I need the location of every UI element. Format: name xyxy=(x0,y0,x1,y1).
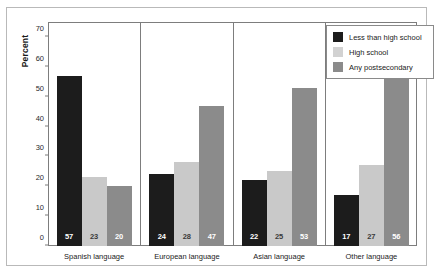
bar-value-label: 17 xyxy=(334,233,359,241)
chart-figure: Percent 010203040506070 572320Spanish la… xyxy=(6,7,427,266)
panel-bars: 572320 xyxy=(48,22,140,246)
bar[interactable]: 53 xyxy=(292,88,317,246)
y-axis-tick-label: 50 xyxy=(36,83,44,92)
legend-swatch-icon xyxy=(333,47,343,57)
x-axis-category-label: Spanish language xyxy=(48,252,140,261)
y-axis-title: Percent xyxy=(20,21,30,81)
legend-swatch-icon xyxy=(333,32,343,42)
bar-value-label: 28 xyxy=(174,233,199,241)
chart-legend: Less than high schoolHigh schoolAny post… xyxy=(326,25,434,79)
bar[interactable]: 56 xyxy=(384,79,409,246)
y-axis-tick-label: 10 xyxy=(36,203,44,212)
x-axis-category-label: Other language xyxy=(326,252,417,261)
chart-panel: 242847European language xyxy=(140,22,232,246)
panel-bars: 222553 xyxy=(234,22,325,246)
legend-swatch-icon xyxy=(333,62,343,72)
legend-item[interactable]: Any postsecondary xyxy=(333,62,428,72)
chart-panel: 222553Asian language xyxy=(233,22,325,246)
y-axis-tick-label: 60 xyxy=(36,53,44,62)
y-axis-tick-label: 0 xyxy=(40,233,44,242)
bar-value-label: 47 xyxy=(199,233,224,241)
bar-value-label: 22 xyxy=(242,233,267,241)
bar-value-label: 23 xyxy=(82,233,107,241)
x-axis-category-label: Asian language xyxy=(234,252,325,261)
legend-item-label: Less than high school xyxy=(349,33,422,42)
legend-item-label: High school xyxy=(349,48,388,57)
y-axis-tick-label: 30 xyxy=(36,143,44,152)
bar[interactable]: 57 xyxy=(57,76,82,246)
chart-panel: 572320Spanish language xyxy=(48,22,140,246)
y-axis-tick-label: 40 xyxy=(36,113,44,122)
bar-value-label: 24 xyxy=(149,233,174,241)
bar[interactable]: 22 xyxy=(242,180,267,246)
bar[interactable]: 47 xyxy=(199,106,224,246)
bar-value-label: 27 xyxy=(359,233,384,241)
x-axis-category-label: European language xyxy=(141,252,232,261)
bar[interactable]: 25 xyxy=(267,171,292,246)
bar-value-label: 25 xyxy=(267,233,292,241)
legend-item-label: Any postsecondary xyxy=(349,63,413,72)
bar[interactable]: 24 xyxy=(149,174,174,246)
legend-item[interactable]: Less than high school xyxy=(333,32,428,42)
bar[interactable]: 28 xyxy=(174,162,199,246)
bar-value-label: 20 xyxy=(107,233,132,241)
bar[interactable]: 17 xyxy=(334,195,359,246)
y-axis-tick-label: 70 xyxy=(36,23,44,32)
bar-value-label: 56 xyxy=(384,233,409,241)
legend-item[interactable]: High school xyxy=(333,47,428,57)
panel-bars: 242847 xyxy=(141,22,232,246)
bar[interactable]: 23 xyxy=(82,177,107,246)
bar-value-label: 57 xyxy=(57,233,82,241)
bar-value-label: 53 xyxy=(292,233,317,241)
bar[interactable]: 20 xyxy=(107,186,132,246)
bar[interactable]: 27 xyxy=(359,165,384,246)
y-axis-tick-label: 20 xyxy=(36,173,44,182)
